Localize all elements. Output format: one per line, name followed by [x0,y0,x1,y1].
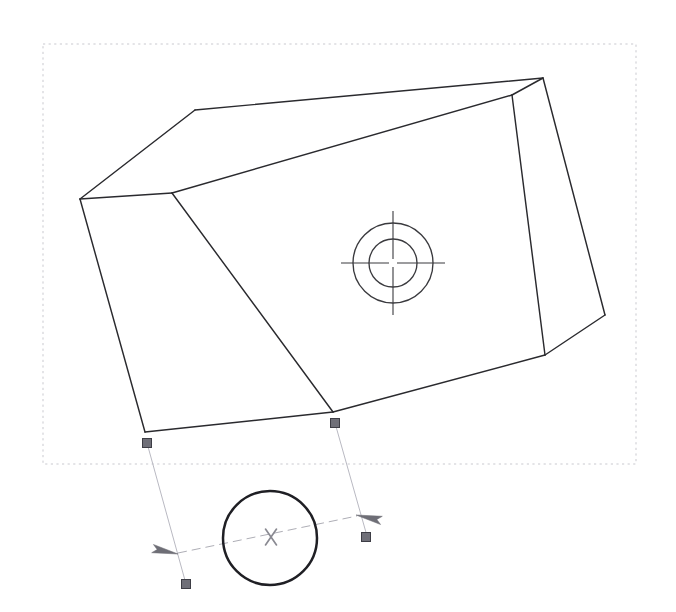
grip-end-left[interactable] [182,580,191,589]
cad-drawing-canvas[interactable] [0,0,676,612]
dim-arrow-right [355,511,382,525]
grip-origin-right[interactable] [331,419,340,428]
grip-end-right[interactable] [362,533,371,542]
dimension-extension-lines [147,423,367,584]
x-cursor-marker [266,529,277,545]
grip-origin-left[interactable] [143,439,152,448]
dimension-grip-handles[interactable] [143,419,371,589]
drawing-viewport[interactable] [0,0,676,612]
solid-faces-group [80,78,605,432]
dim-arrow-left [152,544,179,558]
dimension-line[interactable] [178,516,357,553]
extension-line-right [335,423,367,536]
